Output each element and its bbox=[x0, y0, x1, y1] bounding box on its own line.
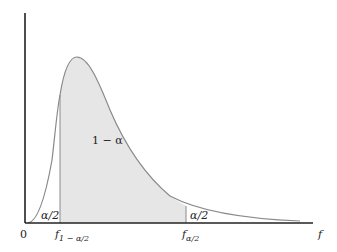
right-tail-label: α/2 bbox=[190, 209, 208, 222]
left-tail-label: α/2 bbox=[41, 209, 59, 222]
right-critical-label: fα/2 bbox=[181, 228, 199, 243]
center-shaded-region bbox=[60, 57, 186, 223]
x-axis-label: f bbox=[317, 228, 324, 241]
f-distribution-diagram: 1 − α α/2 α/2 0 f f1 − α/2 fα/2 bbox=[0, 0, 337, 252]
origin-label: 0 bbox=[20, 228, 27, 241]
left-critical-label: f1 − α/2 bbox=[54, 228, 89, 243]
center-region-label: 1 − α bbox=[92, 134, 123, 147]
